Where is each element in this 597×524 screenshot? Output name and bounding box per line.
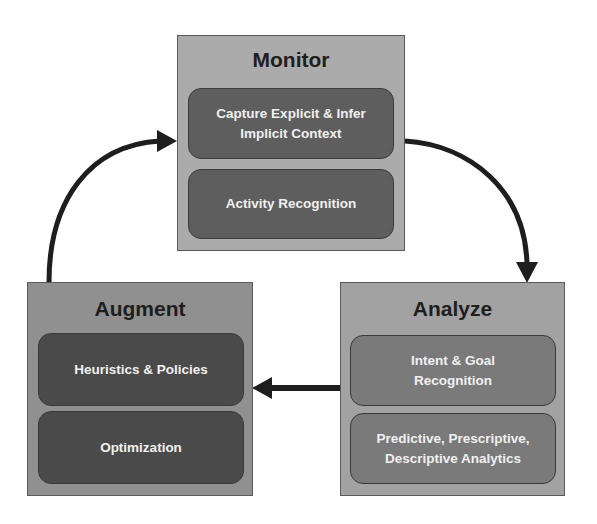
cycle-diagram: Monitor Capture Explicit & Infer Implici…: [0, 0, 597, 524]
augment-card-optimization: Optimization: [38, 411, 244, 484]
card-label: Activity Recognition: [226, 194, 357, 214]
monitor-panel: Monitor Capture Explicit & Infer Implici…: [177, 35, 405, 251]
card-label: Intent & Goal Recognition: [411, 351, 495, 391]
analyze-panel: Analyze Intent & Goal Recognition Predic…: [340, 282, 565, 496]
arrowhead-left-icon: [252, 377, 272, 399]
arrowhead-right-icon: [157, 130, 177, 152]
monitor-card-context-capture: Capture Explicit & Infer Implicit Contex…: [188, 88, 394, 159]
augment-panel: Augment Heuristics & Policies Optimizati…: [27, 282, 253, 496]
analyze-card-analytics: Predictive, Prescriptive, Descriptive An…: [350, 413, 556, 484]
arrow-augment-to-monitor: [49, 141, 160, 282]
arrow-monitor-to-analyze: [405, 141, 527, 264]
card-label: Optimization: [100, 438, 182, 458]
card-label: Capture Explicit & Infer Implicit Contex…: [216, 104, 365, 144]
augment-card-heuristics: Heuristics & Policies: [38, 333, 244, 406]
monitor-title: Monitor: [178, 48, 404, 72]
card-label: Heuristics & Policies: [74, 360, 208, 380]
analyze-title: Analyze: [341, 297, 564, 321]
monitor-card-activity-recognition: Activity Recognition: [188, 169, 394, 239]
analyze-card-intent-goal: Intent & Goal Recognition: [350, 335, 556, 406]
card-label: Predictive, Prescriptive, Descriptive An…: [376, 429, 529, 469]
arrowhead-down-icon: [516, 262, 538, 283]
augment-title: Augment: [28, 297, 252, 321]
